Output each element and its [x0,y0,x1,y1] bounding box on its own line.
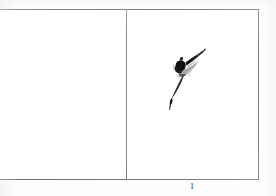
frame-rule-bottom [0,179,259,180]
ink-brush-figure-icon [163,44,211,122]
panel-left-blank [0,10,126,179]
frame-rule-right [258,9,259,180]
scanned-page: 1 [0,0,276,196]
figure-caption-number: 1 [186,181,198,192]
